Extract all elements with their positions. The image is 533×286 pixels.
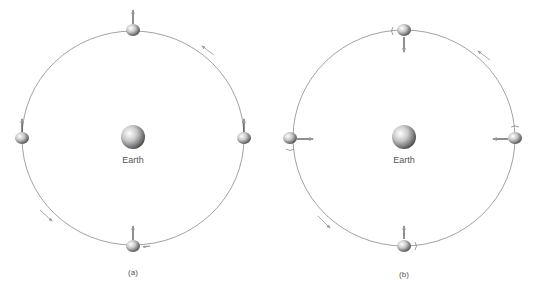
earth-label: Earth [393, 155, 415, 165]
orbit-direction-arrow-icon [40, 210, 52, 221]
moon-left [283, 132, 313, 151]
orbit-direction-arrow-icon [318, 216, 330, 228]
orbit-direction-arrow-icon [143, 246, 150, 247]
moon-bottom [397, 226, 417, 252]
panel-a: Earth (a) [15, 10, 251, 277]
moon-rotation-diagram: Earth (a) Earth [0, 0, 533, 286]
rotation-arrow-icon [511, 126, 519, 127]
earth-label: Earth [122, 155, 144, 165]
moon-top [392, 24, 412, 52]
panel-caption: (b) [399, 270, 409, 279]
moon-top [126, 10, 140, 36]
moon-left [15, 119, 29, 144]
panel-b: Earth (b) [283, 24, 522, 279]
rotation-arrow-icon [286, 149, 294, 151]
rotation-arrow-icon [415, 242, 417, 250]
moon-bottom [126, 226, 140, 252]
earth-sphere [392, 125, 416, 149]
moon-right [237, 119, 251, 144]
moon-right [493, 126, 522, 144]
panel-caption: (a) [128, 268, 138, 277]
orbit-direction-arrow-icon [202, 46, 214, 55]
rotation-arrow-icon [392, 27, 394, 35]
earth-sphere [121, 125, 145, 149]
